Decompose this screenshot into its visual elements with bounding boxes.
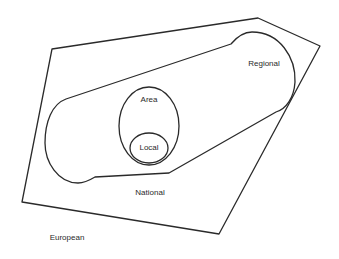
label-european: European	[50, 234, 85, 242]
regional-boundary	[45, 32, 295, 183]
label-regional: Regional	[248, 60, 280, 68]
label-area: Area	[141, 96, 158, 104]
nested-regions-diagram	[0, 0, 339, 259]
national-boundary	[22, 18, 320, 234]
label-national: National	[135, 189, 164, 197]
label-local: Local	[139, 144, 158, 152]
